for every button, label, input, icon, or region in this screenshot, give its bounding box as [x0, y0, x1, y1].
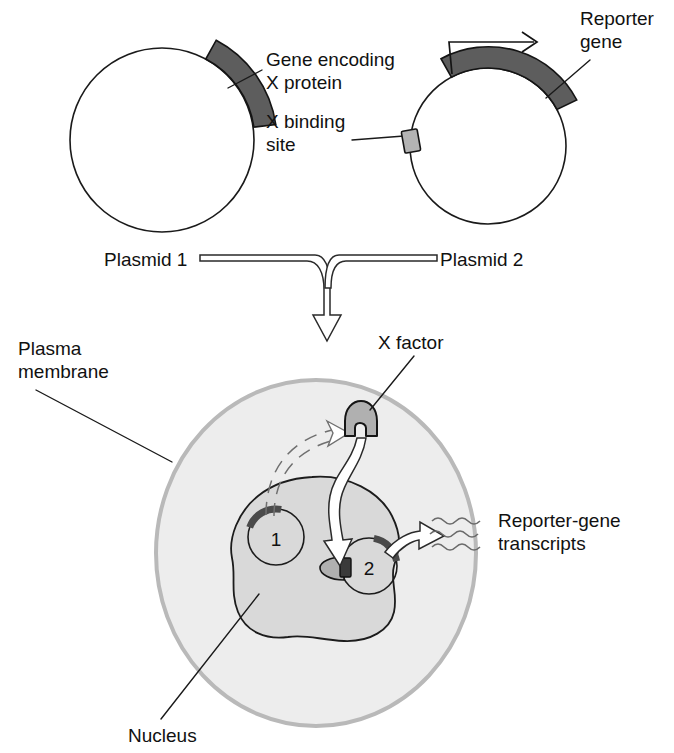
plasmid-merge-arrow-group: [200, 255, 437, 341]
plasmid-1-ring: [70, 48, 254, 232]
plasmid-1-label: Plasmid 1: [104, 249, 187, 270]
plasmid-2-x-binding-site: [401, 129, 421, 153]
x-factor-label: X factor: [378, 332, 444, 353]
merge-arrow-right-branch-icon: [325, 255, 437, 288]
gene-encoding-label-line2: X protein: [266, 72, 342, 93]
reporter-gene-label-group: Reporter gene: [546, 8, 655, 98]
plasma-membrane-label-line1: Plasma: [18, 338, 82, 359]
gene-encoding-label-line1: Gene encoding: [266, 49, 395, 70]
plasma-membrane-label-group: Plasma membrane: [18, 338, 172, 462]
figure-canvas: Gene encoding X protein X binding site R…: [0, 0, 674, 753]
plasma-membrane-leader-line: [36, 390, 172, 462]
reporter-gene-label-line2: gene: [580, 31, 622, 52]
x-binding-site-leader-line: [352, 136, 404, 140]
plasmid-2-label: Plasmid 2: [440, 249, 523, 270]
merge-arrow-icon: [200, 255, 341, 341]
plasmid-2-diagram: [401, 32, 577, 224]
reporter-gene-label-line1: Reporter: [580, 8, 655, 29]
x-binding-site-label-line2: site: [266, 134, 296, 155]
x-binding-site-label-group: X binding site: [266, 111, 404, 155]
plasma-membrane-label-line2: membrane: [18, 361, 109, 382]
nucleus-label: Nucleus: [128, 725, 197, 746]
plasmid-2-reporter-arc: [441, 47, 577, 110]
cell-diagram: [156, 380, 476, 726]
transcripts-label-line1: Reporter-gene: [498, 510, 621, 531]
x-binding-site-label-line1: X binding: [266, 111, 345, 132]
nuclear-plasmid-2-number: 2: [364, 558, 375, 579]
transcripts-label-line2: transcripts: [498, 533, 586, 554]
nuclear-plasmid-1-number: 1: [271, 529, 282, 550]
plasmid-1-diagram: [70, 40, 276, 232]
